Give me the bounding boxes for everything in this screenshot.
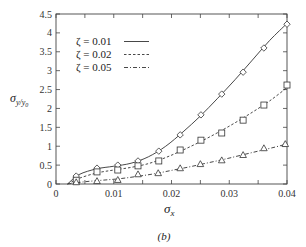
y-tick-label: 3.5 <box>40 46 53 57</box>
diamond-marker <box>261 45 267 51</box>
x-tick-label: 0.02 <box>163 188 181 199</box>
x-tick-label: 0.03 <box>221 188 239 199</box>
y-tick-label: 2.5 <box>40 84 53 95</box>
y-tick-label: 0.5 <box>40 160 53 171</box>
square-marker <box>219 130 225 136</box>
y-tick-label: 1 <box>47 141 52 152</box>
square-marker <box>135 163 141 169</box>
xlabel-sub: x <box>169 208 174 218</box>
x-axis-label: σx <box>164 201 174 218</box>
square-marker <box>261 102 267 108</box>
triangle-marker <box>261 145 268 151</box>
legend-label-0: ζ = 0.01 <box>76 35 112 48</box>
legend-label-1: ζ = 0.02 <box>76 48 112 61</box>
square-marker <box>94 169 100 175</box>
triangle-marker <box>135 171 142 177</box>
legend-label-2: ζ = 0.05 <box>76 61 112 74</box>
x-tick-label: 0 <box>54 188 59 199</box>
y-axis-label: σy/y0 <box>10 91 28 108</box>
square-marker <box>115 167 121 173</box>
triangle-marker <box>282 141 289 147</box>
svg-text:σy/y0: σy/y0 <box>10 91 28 108</box>
diamond-marker <box>156 148 162 154</box>
y-tick-label: 0 <box>47 179 52 190</box>
square-marker <box>177 147 183 153</box>
y-tick-label: 3 <box>47 65 52 76</box>
square-marker <box>156 158 162 164</box>
ylabel-sub: y/y <box>15 98 26 107</box>
y-tick-label: 2 <box>47 103 52 114</box>
svg-text:σx: σx <box>164 201 174 218</box>
x-tick-label: 0.01 <box>105 188 123 199</box>
legend: ζ = 0.01 ζ = 0.02 ζ = 0.05 <box>76 35 149 74</box>
x-tick-label: 0.04 <box>278 188 296 199</box>
y-tick-label: 4 <box>47 27 52 38</box>
figure-caption: (b) <box>158 230 171 243</box>
square-marker <box>240 117 246 123</box>
chart: 00.511.522.533.544.500.010.020.030.04 ζ … <box>0 0 306 247</box>
triangle-marker <box>177 165 184 171</box>
diamond-marker <box>240 69 246 75</box>
triangle-marker <box>218 157 225 163</box>
diamond-marker <box>284 21 290 27</box>
ylabel-subsub: 0 <box>25 102 28 108</box>
y-tick-label: 1.5 <box>40 122 53 133</box>
y-tick-label: 4.5 <box>40 9 53 20</box>
square-marker <box>284 82 290 88</box>
square-marker <box>198 137 204 143</box>
